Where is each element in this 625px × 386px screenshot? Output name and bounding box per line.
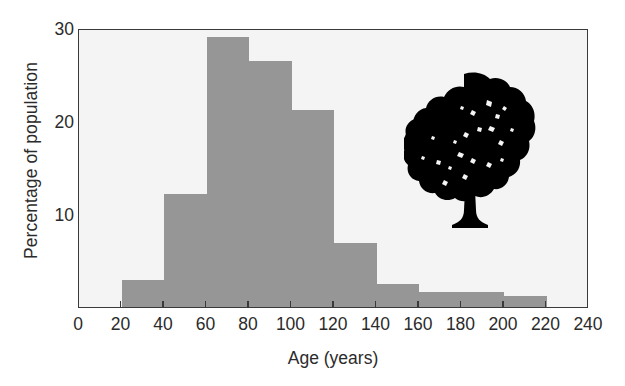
histogram-bar bbox=[462, 292, 505, 307]
histogram-bar bbox=[504, 296, 547, 307]
histogram-bar bbox=[249, 61, 292, 307]
x-tick-mark bbox=[460, 301, 462, 308]
x-tick-label: 240 bbox=[558, 314, 618, 335]
x-tick-mark bbox=[375, 301, 377, 308]
histogram-bar bbox=[419, 292, 462, 307]
x-axis-title: Age (years) bbox=[78, 348, 588, 369]
histogram-bar bbox=[122, 280, 165, 307]
y-tick-label: 30 bbox=[36, 19, 74, 40]
histogram-bar bbox=[377, 284, 420, 307]
x-tick-mark bbox=[417, 301, 419, 308]
histogram-figure: Percentage of population 102030 bbox=[0, 0, 625, 386]
x-tick-mark bbox=[247, 301, 249, 308]
y-tick-label: 10 bbox=[36, 205, 74, 226]
y-tick-label: 20 bbox=[36, 112, 74, 133]
x-tick-mark bbox=[290, 301, 292, 308]
x-tick-mark bbox=[162, 301, 164, 308]
histogram-bar bbox=[292, 110, 335, 307]
histogram-bar bbox=[164, 194, 207, 307]
x-tick-mark bbox=[545, 301, 547, 308]
x-tick-mark bbox=[205, 301, 207, 308]
x-tick-mark bbox=[120, 301, 122, 308]
histogram-bar bbox=[207, 37, 250, 307]
histogram-bar bbox=[334, 243, 377, 307]
x-tick-mark bbox=[332, 301, 334, 308]
x-tick-mark bbox=[502, 301, 504, 308]
tree-silhouette-icon bbox=[404, 70, 536, 250]
